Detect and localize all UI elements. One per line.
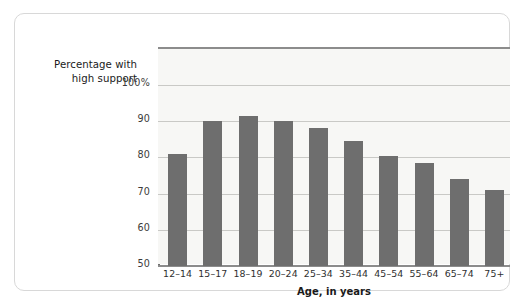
- y-tick-label-60: 60: [112, 222, 150, 233]
- bar-18-19: [239, 116, 258, 266]
- bar-20-24: [274, 121, 293, 266]
- y-tick-label-100: 100%: [112, 77, 150, 88]
- y-tick-label-90: 90: [112, 113, 150, 124]
- y-tick-label-50: 50: [112, 258, 150, 269]
- chart-card: Percentage with high support Age, in yea…: [14, 13, 510, 291]
- bar-55-64: [415, 163, 434, 266]
- bar-12-14: [168, 154, 187, 266]
- bar-15-17: [203, 121, 222, 266]
- x-tick-label-9: 75+: [472, 268, 516, 279]
- plot-area: [158, 47, 510, 264]
- y-tick-label-80: 80: [112, 149, 150, 160]
- gridline-100: [158, 85, 510, 86]
- bar-45-54: [379, 156, 398, 266]
- y-tick-label-70: 70: [112, 186, 150, 197]
- x-axis-title: Age, in years: [158, 286, 510, 297]
- bar-25-34: [309, 128, 328, 266]
- bar-75+: [485, 190, 504, 266]
- y-axis-title-line1: Percentage with: [54, 59, 137, 70]
- bar-65-74: [450, 179, 469, 266]
- bar-35-44: [344, 141, 363, 266]
